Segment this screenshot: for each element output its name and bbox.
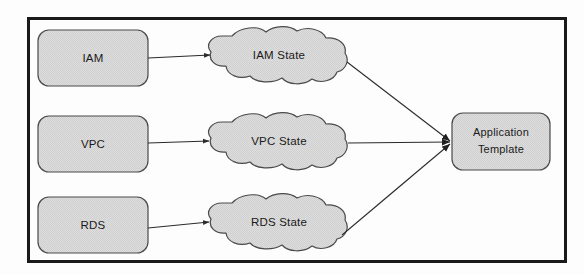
node-rds-label: RDS [81,219,106,231]
architecture-diagram: IAM VPC RDS IAM State VPC State RDS Stat… [0,0,584,275]
node-vpc[interactable]: VPC [38,116,148,172]
node-iam-state-label: IAM State [253,49,305,61]
diagram-canvas: IAM VPC RDS IAM State VPC State RDS Stat… [0,0,584,275]
node-vpc-state-label: VPC State [251,135,307,147]
node-application-template[interactable]: Application Template [452,113,550,170]
node-application-template-label-line1: Application [473,126,529,138]
node-application-template-shape [452,113,550,170]
node-rds[interactable]: RDS [38,197,148,253]
node-vpc-label: VPC [81,138,105,150]
node-iam-label: IAM [82,52,103,64]
node-iam[interactable]: IAM [38,30,148,86]
node-rds-state-label: RDS State [251,216,307,228]
node-application-template-label-line2: Template [478,143,524,155]
